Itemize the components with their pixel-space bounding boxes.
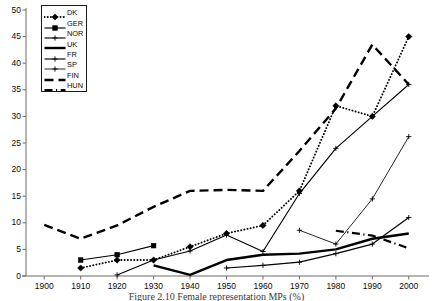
x-axis-tick-label: 1990 <box>354 282 390 291</box>
legend-swatch-fr-icon <box>44 50 66 60</box>
y-axis-tick-label: 25 <box>2 139 21 148</box>
figure-caption: Figure 2.10 Female representation MPs (%… <box>0 291 433 301</box>
x-axis-tick-label: 2000 <box>391 282 427 291</box>
x-axis-tick-label: 1910 <box>63 282 99 291</box>
x-axis-tick-label: 1900 <box>26 282 62 291</box>
legend-item-nor[interactable]: NOR <box>44 29 84 39</box>
legend-item-hun[interactable]: HUN <box>44 81 84 91</box>
x-axis-tick-label: 1950 <box>209 282 245 291</box>
chart-legend: DKGERNORUKFRSPFINHUN <box>41 5 87 92</box>
y-axis-tick-label: 40 <box>2 59 21 68</box>
x-axis-tick-label: 1940 <box>172 282 208 291</box>
legend-label: NOR <box>67 30 83 37</box>
legend-item-fr[interactable]: FR <box>44 50 84 60</box>
y-axis-tick-label: 35 <box>2 85 21 94</box>
legend-swatch-uk-icon <box>44 39 66 49</box>
x-axis-tick-label: 1930 <box>136 282 172 291</box>
legend-label: UK <box>67 41 77 48</box>
y-axis-tick-label: 10 <box>2 218 21 227</box>
legend-swatch-nor-icon <box>44 29 66 39</box>
y-axis-tick-label: 30 <box>2 112 21 121</box>
legend-label: FR <box>67 51 77 58</box>
legend-label: GER <box>67 20 83 27</box>
legend-label: HUN <box>67 82 83 89</box>
legend-swatch-hun-icon <box>44 81 66 91</box>
series-fr <box>224 215 411 271</box>
chart-figure: 50454035302520151050 1900191019201930194… <box>0 0 433 301</box>
series-sp <box>297 134 412 247</box>
legend-item-ger[interactable]: GER <box>44 18 84 28</box>
legend-swatch-sp-icon <box>44 60 66 70</box>
x-axis-tick-label: 1980 <box>318 282 354 291</box>
legend-swatch-fin-icon <box>44 71 66 81</box>
legend-label: SP <box>67 61 77 68</box>
y-axis-tick-label: 5 <box>2 245 21 254</box>
y-axis-tick-label: 0 <box>2 272 21 281</box>
legend-item-fin[interactable]: FIN <box>44 70 84 80</box>
legend-label: DK <box>67 9 77 16</box>
series-dk <box>78 34 412 272</box>
legend-swatch-dk-icon <box>44 8 66 18</box>
y-axis-tick-label: 20 <box>2 165 21 174</box>
chart-series-layer <box>44 34 412 278</box>
y-axis-tick-label: 45 <box>2 32 21 41</box>
x-axis-tick-label: 1960 <box>245 282 281 291</box>
x-axis-tick-label: 1970 <box>281 282 317 291</box>
series-uk <box>154 233 409 275</box>
y-axis-tick-label: 50 <box>2 6 21 15</box>
series-nor <box>115 82 412 278</box>
legend-item-sp[interactable]: SP <box>44 60 84 70</box>
legend-label: FIN <box>67 72 79 79</box>
legend-item-dk[interactable]: DK <box>44 8 84 18</box>
y-axis-tick-label: 15 <box>2 192 21 201</box>
x-axis-tick-label: 1920 <box>99 282 135 291</box>
legend-swatch-ger-icon <box>44 19 66 29</box>
series-fin <box>44 45 409 239</box>
legend-item-uk[interactable]: UK <box>44 39 84 49</box>
